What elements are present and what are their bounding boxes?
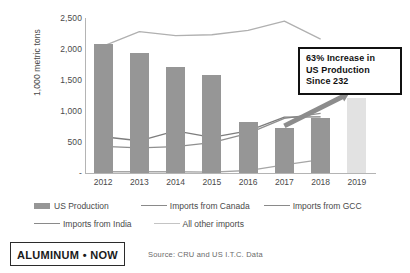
legend-swatch-line-icon: [154, 223, 180, 224]
legend-row-1: US Production Imports from Canada Import…: [34, 198, 384, 213]
legend-row-2: Imports from India All other imports: [34, 216, 384, 231]
legend-label-us-production: US Production: [54, 201, 109, 211]
chart-screenshot: 1,000 metric tons -5001,0001,5002,0002,5…: [0, 0, 410, 273]
y-tick-label: 2,500: [60, 13, 82, 23]
line-series-layer: [85, 18, 375, 173]
legend-label-all-other-imports: All other imports: [183, 219, 244, 229]
legend-swatch-line-icon: [34, 223, 60, 224]
y-tick-label: 500: [68, 137, 82, 147]
logo-text: ALUMINUM • NOW: [17, 249, 118, 261]
bar-2012: [94, 44, 113, 173]
x-tick-label: 2018: [311, 177, 330, 187]
x-tick-label: 2012: [94, 177, 113, 187]
bar-2015: [202, 75, 221, 173]
plot-area: [85, 18, 375, 173]
legend-swatch-line-icon: [264, 205, 290, 206]
legend-swatch-line-icon: [141, 205, 167, 206]
x-tick-label: 2013: [130, 177, 149, 187]
line-all-other-imports: [103, 21, 321, 46]
x-tick-label: 2014: [166, 177, 185, 187]
x-tick-label: 2016: [239, 177, 258, 187]
y-tick-label: 1,000: [60, 106, 82, 116]
callout-line-1: 63% Increase in: [306, 53, 395, 65]
callout-box: 63% Increase in US Production Since 232: [298, 47, 402, 95]
legend-item-imports-india: Imports from India: [34, 219, 132, 229]
legend-label-imports-gcc: Imports from GCC: [293, 201, 362, 211]
legend-item-us-production: US Production: [34, 201, 109, 211]
bar-2018: [311, 118, 330, 173]
legend-swatch-bar-icon: [34, 203, 50, 209]
y-axis-ticks: -5001,0001,5002,0002,500: [44, 0, 82, 173]
legend-item-all-other-imports: All other imports: [154, 219, 244, 229]
legend-label-imports-canada: Imports from Canada: [170, 201, 250, 211]
bar-2016: [239, 122, 258, 173]
x-axis-line: [85, 173, 376, 174]
callout-line-3: Since 232: [306, 76, 395, 88]
bar-2019: [347, 98, 366, 173]
bar-2013: [130, 53, 149, 173]
legend-label-imports-india: Imports from India: [63, 219, 132, 229]
y-axis-label: 1,000 metric tons: [32, 29, 42, 96]
x-tick-label: 2015: [202, 177, 221, 187]
x-tick-label: 2017: [275, 177, 294, 187]
chart-legend: US Production Imports from Canada Import…: [34, 198, 384, 231]
x-tick-label: 2019: [347, 177, 366, 187]
bar-2017: [275, 128, 294, 173]
y-tick-label: 1,500: [60, 75, 82, 85]
source-note: Source: CRU and US I.T.C. Data: [148, 250, 263, 259]
bar-2014: [166, 67, 185, 173]
y-tick-label: -: [79, 168, 82, 178]
callout-line-2: US Production: [306, 65, 395, 77]
aluminum-now-logo: ALUMINUM • NOW: [10, 242, 125, 266]
y-tick-label: 2,000: [60, 44, 82, 54]
legend-item-imports-gcc: Imports from GCC: [264, 201, 362, 211]
legend-item-imports-canada: Imports from Canada: [141, 201, 250, 211]
